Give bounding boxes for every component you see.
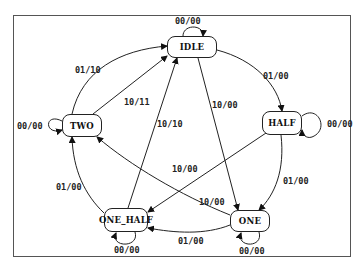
label-one-one: 00/00 [239,246,265,256]
state-half-label: HALF [268,118,295,128]
label-two-idle-1011: 10/11 [124,97,150,107]
label-two-idle-0110: 01/10 [75,65,101,75]
label-half-half: 00/00 [327,119,353,129]
state-half: HALF [262,111,302,135]
label-idle-idle: 00/00 [175,16,201,26]
label-half-one: 01/00 [283,176,309,186]
state-one-label: ONE [239,216,261,226]
state-diagram: IDLE TWO HALF ONE_HALF ONE 00/00 01/00 1… [0,0,364,270]
label-onehalf-idle: 10/10 [157,119,183,129]
state-one: ONE [230,210,270,232]
state-two-label: TWO [70,121,94,131]
label-onehalf-onehalf: 00/00 [114,245,140,255]
state-one-half: ONE_HALF [104,208,148,232]
state-two: TWO [62,114,102,137]
label-idle-one: 10/00 [212,100,238,110]
label-idle-half: 01/00 [263,71,289,81]
label-one-onehalf: 01/00 [178,236,204,246]
state-idle-label: IDLE [180,42,205,52]
label-one-two: 10/00 [199,197,225,207]
label-two-two: 00/00 [17,121,43,131]
label-onehalf-two: 01/00 [56,182,82,192]
state-one-half-label: ONE_HALF [99,215,153,225]
state-idle: IDLE [167,36,217,58]
label-half-onehalf: 10/00 [172,164,198,174]
